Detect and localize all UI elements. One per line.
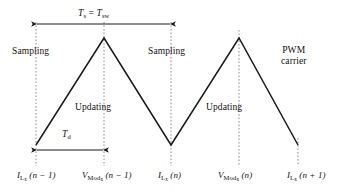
switching-period-label: Ts = Tsw xyxy=(78,8,109,19)
tick-1-argument: (n − 1) xyxy=(29,170,55,180)
tick-2-argument: (n − 1) xyxy=(105,170,131,180)
tick-4-subsubscript: x xyxy=(236,176,239,182)
tick-4-subscript: Modx xyxy=(224,174,239,181)
tick-5-argument: (n + 1) xyxy=(299,170,325,180)
tsw-subscript: sw xyxy=(102,12,110,19)
sampling-label-2: Sampling xyxy=(148,46,185,57)
tick-2-subscript: Modx xyxy=(88,174,103,181)
updating-label-2: Updating xyxy=(206,102,242,113)
tick-label-il-n-minus-1: ILx (n − 1) xyxy=(17,170,56,181)
tick-3-subscript: Lx xyxy=(161,174,168,181)
pwm-timing-figure: Ts = Tsw Td Sampling Sampling Updating U… xyxy=(0,0,359,196)
delay-time-label: Td xyxy=(62,129,71,140)
tick-label-vmod-n: VModx (n) xyxy=(218,170,252,181)
equals-sign: = xyxy=(89,8,94,18)
tick-1-subscript: Lx xyxy=(20,174,27,181)
tick-5-subsubscript: x xyxy=(294,176,297,182)
tick-3-subsubscript: x xyxy=(165,176,168,182)
ts-subscript: s xyxy=(83,12,86,19)
tick-3-argument: (n) xyxy=(170,170,181,180)
sampling-label-1: Sampling xyxy=(12,46,49,57)
pwm-carrier-line-1: PWM xyxy=(281,45,306,56)
tick-2-subsubscript: x xyxy=(100,176,103,182)
tick-4-argument: (n) xyxy=(241,170,252,180)
pwm-carrier-line-2: carrier xyxy=(281,56,306,67)
tick-label-il-n-plus-1: ILx (n + 1) xyxy=(287,170,326,181)
tick-label-il-n: ILx (n) xyxy=(158,170,181,181)
updating-label-1: Updating xyxy=(75,102,111,113)
td-subscript: d xyxy=(67,133,70,140)
tick-1-subsubscript: x xyxy=(24,176,27,182)
dashed-guide-lines xyxy=(36,22,298,166)
pwm-carrier-label: PWM carrier xyxy=(281,45,306,67)
tick-label-vmod-n-minus-1: VModx (n − 1) xyxy=(82,170,132,181)
diagram-canvas xyxy=(0,0,359,196)
tick-5-subscript: Lx xyxy=(290,174,297,181)
